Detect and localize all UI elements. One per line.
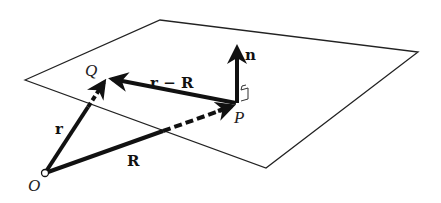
label-n: n	[245, 46, 256, 64]
right-angle-marker	[241, 85, 248, 101]
label-r-minus-R: r − R	[150, 74, 194, 92]
label-r: r	[55, 120, 64, 138]
label-R: R	[127, 152, 140, 170]
plane-vector-diagram: Q P O r R r − R n	[0, 0, 441, 203]
vector-R	[48, 106, 232, 172]
plane	[25, 20, 418, 168]
label-Q: Q	[85, 61, 97, 80]
label-P: P	[233, 108, 244, 127]
origin-point	[42, 170, 49, 177]
label-O: O	[28, 176, 40, 195]
